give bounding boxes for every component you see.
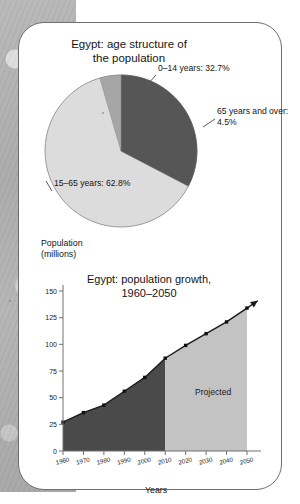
data-point-2010 bbox=[164, 357, 167, 360]
x-tick-label: 2050 bbox=[239, 455, 255, 465]
data-point-2050 bbox=[245, 306, 248, 309]
projected-region-label: Projected bbox=[195, 387, 231, 397]
y-tick-label: 100 bbox=[45, 341, 57, 348]
x-tick-label: 2000 bbox=[137, 455, 153, 465]
y-tick-label: 50 bbox=[49, 394, 57, 401]
y-tick-label: 25 bbox=[49, 421, 57, 428]
y-tick-label: 75 bbox=[49, 368, 57, 375]
data-point-1990 bbox=[123, 390, 126, 393]
area-fill-projected bbox=[165, 308, 247, 451]
data-point-2040 bbox=[225, 320, 228, 323]
y-tick-label: 125 bbox=[45, 314, 57, 321]
figure-card: Egypt: age structure of the population 0… bbox=[18, 22, 282, 490]
data-point-1980 bbox=[102, 403, 105, 406]
x-tick-label: 1980 bbox=[96, 455, 112, 465]
x-tick-label: 2020 bbox=[178, 455, 194, 465]
x-tick-label: 2040 bbox=[218, 455, 234, 465]
data-point-1970 bbox=[82, 411, 85, 414]
x-axis-label: Years bbox=[145, 485, 167, 495]
y-tick-label: 150 bbox=[45, 288, 57, 295]
figure-page: Egypt: age structure of the population 0… bbox=[0, 0, 300, 504]
data-point-2020 bbox=[184, 344, 187, 347]
texture-fleck bbox=[9, 300, 11, 302]
data-point-2000 bbox=[143, 376, 146, 379]
x-tick-label: 1990 bbox=[116, 455, 132, 465]
data-point-2030 bbox=[204, 332, 207, 335]
trend-arrowhead bbox=[250, 301, 258, 308]
line-chart-svg: 0255075100125150196019701980199020002010… bbox=[19, 23, 283, 491]
x-tick-label: 2030 bbox=[198, 455, 214, 465]
x-tick-label: 1970 bbox=[75, 455, 91, 465]
y-tick-label: 0 bbox=[53, 448, 57, 455]
x-tick-label: 2010 bbox=[157, 455, 173, 465]
x-tick-label: 1960 bbox=[55, 455, 71, 465]
